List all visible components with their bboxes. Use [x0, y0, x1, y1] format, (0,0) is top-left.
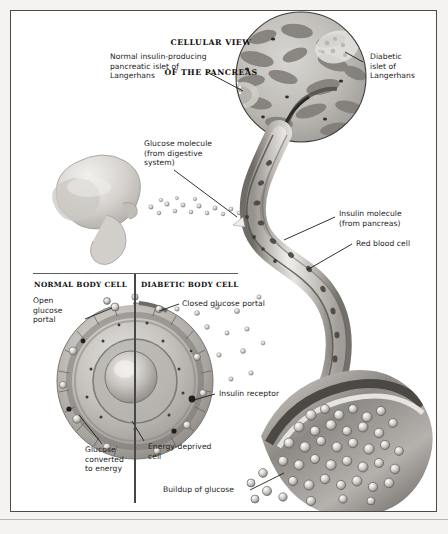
label-glucose-converted: Glucose converted to energy — [85, 445, 147, 474]
label-insulin-molecule: Insulin molecule (from pancreas) — [339, 209, 437, 228]
page-title-line1: CELLULAR VIEW — [123, 38, 299, 48]
leader-red-blood-cell — [307, 244, 352, 270]
page-background: CELLULAR VIEW OF THE PANCREAS Normal ins… — [0, 0, 448, 534]
label-insulin-receptor: Insulin receptor — [219, 389, 309, 399]
glucose-stream-upper — [149, 196, 249, 216]
panel-heading-diabetic: DIABETIC BODY CELL — [141, 280, 239, 289]
stomach-illustration — [52, 155, 140, 265]
label-closed-glucose-portal: Closed glucose portal — [182, 299, 304, 309]
label-glucose-molecule: Glucose molecule (from digestive system) — [144, 139, 244, 168]
page-edge-rule — [0, 519, 448, 520]
label-energy-deprived: Energy-deprived cell — [148, 442, 230, 461]
label-buildup-of-glucose: Buildup of glucose — [163, 485, 259, 495]
label-red-blood-cell: Red blood cell — [356, 239, 437, 249]
insulin-burst — [233, 217, 245, 227]
panel-heading-normal: NORMAL BODY CELL — [34, 280, 127, 289]
leader-insulin-molecule — [284, 217, 335, 240]
illustration-frame: CELLULAR VIEW OF THE PANCREAS Normal ins… — [10, 10, 437, 512]
label-diabetic-islet: Diabetic islet of Langerhans — [370, 52, 436, 81]
leader-glucose-molecule — [174, 170, 237, 217]
label-normal-islet: Normal insulin-producing pancreatic isle… — [110, 52, 218, 81]
label-open-glucose-portal: Open glucose portal — [33, 296, 89, 325]
